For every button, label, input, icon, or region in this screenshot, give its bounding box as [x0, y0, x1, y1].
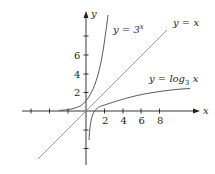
- identity-line: [38, 30, 167, 159]
- y-tick-label: 2: [74, 87, 80, 98]
- y-tick-label: 4: [74, 69, 80, 80]
- x-tick-label: 4: [121, 115, 127, 126]
- function-graph: 2 4 6 8 2 4 6 x y y = 3x y = x y = log3 …: [0, 0, 215, 174]
- y-tick-label: 6: [74, 50, 80, 61]
- x-tick-label: 2: [102, 115, 108, 126]
- x-axis-label: x: [203, 105, 209, 116]
- x-axis-arrow-icon: [193, 109, 200, 114]
- x-tick-label: 8: [157, 115, 163, 126]
- y-axis-label: y: [90, 8, 97, 19]
- identity-label: y = x: [172, 17, 199, 28]
- x-tick-label: 6: [139, 115, 145, 126]
- exponential-label: y = 3x: [112, 23, 144, 35]
- y-axis-arrow-icon: [84, 11, 89, 18]
- logarithm-label: y = log3 x: [148, 73, 199, 87]
